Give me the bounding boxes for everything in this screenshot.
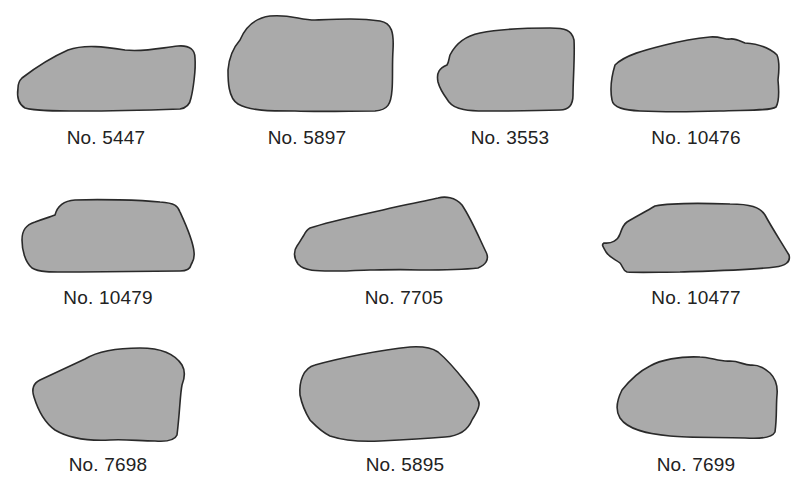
specimen-label: No. 7699 — [657, 454, 736, 476]
specimen-label: No. 5897 — [268, 127, 347, 149]
specimen-label: No. 10476 — [651, 127, 740, 149]
stone-outline-7705 — [295, 197, 488, 271]
specimen-outline-figure: No. 5447 No. 5897 No. 3553 No. 10476 No.… — [0, 0, 799, 489]
stone-outline-7699 — [617, 357, 777, 438]
stone-outline-3553 — [437, 28, 574, 111]
specimen-label: No. 7705 — [365, 287, 444, 309]
stone-outline-7698 — [33, 348, 184, 441]
specimen-label: No. 3553 — [471, 127, 550, 149]
specimen-label: No. 10479 — [63, 287, 152, 309]
stone-outline-10477 — [603, 203, 790, 272]
stone-outline-10479 — [22, 200, 194, 272]
specimen-label: No. 5447 — [67, 127, 146, 149]
stone-outlines — [0, 0, 799, 489]
stone-outline-5897 — [228, 16, 393, 112]
specimen-label: No. 5895 — [366, 454, 445, 476]
specimen-label: No. 10477 — [651, 287, 740, 309]
stone-outline-10476 — [611, 37, 779, 112]
stone-outline-5895 — [300, 347, 479, 442]
specimen-label: No. 7698 — [69, 454, 148, 476]
stone-outline-5447 — [18, 46, 196, 111]
